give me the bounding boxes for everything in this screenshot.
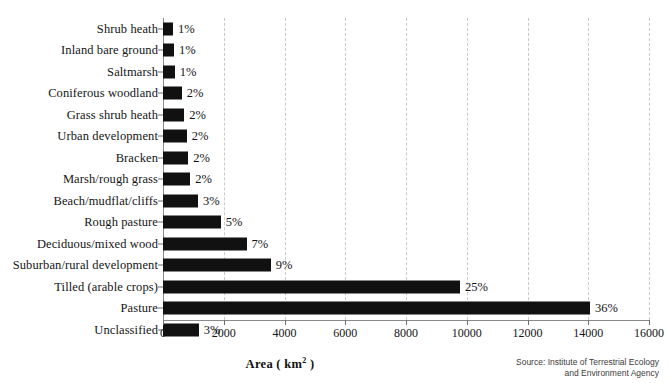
category-label: Inland bare ground <box>61 44 158 57</box>
category-label: Unclassified <box>94 324 158 337</box>
x-tick-label: 8000 <box>394 327 418 339</box>
bar-row: Deciduous/mixed wood7% <box>0 233 669 255</box>
source-note-line-1: Source: Institute of Terrestrial Ecology <box>516 357 659 368</box>
x-tick-label: 4000 <box>273 327 297 339</box>
bar-row: Rough pasture5% <box>0 212 669 234</box>
bar <box>163 280 460 293</box>
x-tick-mark-8000 <box>406 320 407 325</box>
bar-value-label: 9% <box>276 259 293 272</box>
category-label: Bracken <box>116 152 158 165</box>
x-tick-mark-12000 <box>528 320 529 325</box>
x-tick-mark-16000 <box>649 320 650 325</box>
land-cover-bar-chart: Shrub heath1%Inland bare ground1%Saltmar… <box>0 0 669 383</box>
category-label: Tilled (arable crops) <box>54 281 158 294</box>
bar <box>163 108 184 121</box>
category-label: Grass shrub heath <box>67 109 158 122</box>
category-label: Pasture <box>121 302 159 315</box>
bar-row: Suburban/rural development9% <box>0 255 669 277</box>
bar-row: Inland bare ground1% <box>0 40 669 62</box>
category-label: Deciduous/mixed wood <box>37 238 158 251</box>
category-label: Beach/mudflat/cliffs <box>53 195 158 208</box>
x-tick-mark-6000 <box>345 320 346 325</box>
bar-row: Tilled (arable crops)25% <box>0 276 669 298</box>
bar-value-label: 36% <box>595 302 618 315</box>
bar-value-label: 2% <box>189 109 206 122</box>
category-label: Coniferous woodland <box>48 87 158 100</box>
bar-row: Urban development2% <box>0 126 669 148</box>
bar <box>163 237 247 250</box>
bar-value-label: 2% <box>193 152 210 165</box>
bar <box>163 65 175 78</box>
bar <box>163 151 188 164</box>
category-label: Saltmarsh <box>107 66 158 79</box>
bar-value-label: 1% <box>180 66 197 79</box>
source-note-line-2: and Environment Agency <box>516 368 659 379</box>
bar-value-label: 1% <box>179 44 196 57</box>
x-tick-label: 2000 <box>212 327 236 339</box>
bar-value-label: 7% <box>252 238 269 251</box>
bar-row: Marsh/rough grass2% <box>0 169 669 191</box>
category-label: Shrub heath <box>97 23 158 36</box>
x-tick-mark-2000 <box>224 320 225 325</box>
bar <box>163 22 173 35</box>
x-tick-label: 14000 <box>573 327 603 339</box>
bar-value-label: 2% <box>192 130 209 143</box>
bar-row: Bracken2% <box>0 147 669 169</box>
bar-value-label: 25% <box>465 281 488 294</box>
bar-row: Grass shrub heath2% <box>0 104 669 126</box>
x-tick-mark-4000 <box>285 320 286 325</box>
category-label: Urban development <box>57 130 158 143</box>
source-note: Source: Institute of Terrestrial Ecology… <box>516 357 659 379</box>
bar <box>163 259 271 272</box>
bar-value-label: 5% <box>226 216 243 229</box>
bar-value-label: 2% <box>195 173 212 186</box>
bar <box>163 44 174 57</box>
bar <box>163 87 182 100</box>
x-axis-title-base: Area ( km <box>246 357 303 371</box>
bar <box>163 302 590 315</box>
category-label: Suburban/rural development <box>13 259 158 272</box>
bar-value-label: 1% <box>178 23 195 36</box>
bar <box>163 194 198 207</box>
bar <box>163 323 199 336</box>
x-tick-mark-10000 <box>467 320 468 325</box>
x-tick-label: 10000 <box>452 327 482 339</box>
x-tick-label: 12000 <box>513 327 543 339</box>
x-tick-label: 0 <box>160 327 166 339</box>
bar-row: Beach/mudflat/cliffs3% <box>0 190 669 212</box>
bar-row: Pasture36% <box>0 298 669 320</box>
x-tick-mark-14000 <box>588 320 589 325</box>
category-label: Marsh/rough grass <box>63 173 158 186</box>
bar-value-label: 3% <box>203 195 220 208</box>
x-tick-label: 16000 <box>634 327 664 339</box>
bar-row: Shrub heath1% <box>0 18 669 40</box>
x-tick-label: 6000 <box>333 327 357 339</box>
x-axis-title: Area ( km2 ) <box>0 356 560 372</box>
category-label: Rough pasture <box>84 216 158 229</box>
bar-value-label: 2% <box>187 87 204 100</box>
bar-row: Saltmarsh1% <box>0 61 669 83</box>
x-axis-title-close: ) <box>307 357 315 371</box>
bar-row: Coniferous woodland2% <box>0 83 669 105</box>
x-tick-mark-0 <box>163 320 164 325</box>
bar <box>163 216 221 229</box>
bar <box>163 173 190 186</box>
bar <box>163 130 187 143</box>
